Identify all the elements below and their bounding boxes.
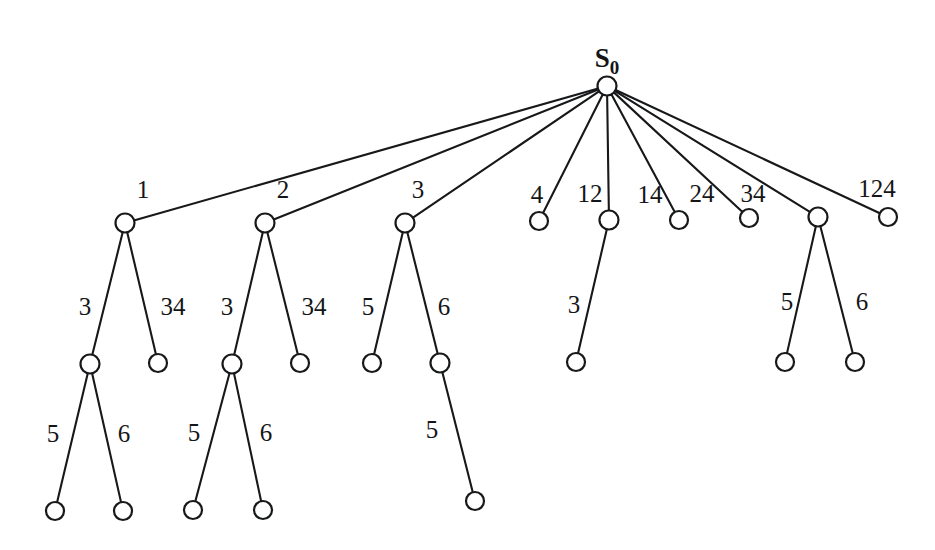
edge-label: 5 bbox=[362, 293, 375, 320]
tree-edge bbox=[374, 233, 402, 354]
tree-edge bbox=[578, 230, 607, 353]
tree-node[interactable] bbox=[670, 211, 688, 229]
tree-node[interactable] bbox=[81, 355, 100, 374]
tree-node[interactable] bbox=[567, 353, 585, 371]
tree-edge bbox=[57, 374, 87, 502]
edge-label: 5 bbox=[188, 419, 201, 446]
edge-label: 12 bbox=[578, 180, 603, 207]
tree-node[interactable] bbox=[256, 214, 275, 233]
tree-edge bbox=[614, 93, 742, 212]
edge-label: 34 bbox=[161, 293, 187, 320]
tree-edge bbox=[234, 233, 262, 354]
edge-label: 2 bbox=[277, 176, 290, 203]
tree-edge bbox=[413, 92, 598, 218]
tree-edge bbox=[267, 233, 297, 354]
tree-edge bbox=[821, 227, 853, 353]
edge-label: 6 bbox=[856, 288, 869, 315]
tree-node[interactable] bbox=[879, 208, 897, 226]
edge-label: 24 bbox=[690, 180, 716, 207]
root-node-label: S0 bbox=[595, 43, 620, 78]
tree-node[interactable] bbox=[116, 214, 135, 233]
edge-label: 34 bbox=[741, 180, 767, 207]
tree-edge bbox=[92, 374, 121, 502]
edge-label: 6 bbox=[118, 420, 131, 447]
tree-edge bbox=[135, 89, 598, 220]
tree-edge bbox=[407, 233, 437, 353]
tree-node[interactable] bbox=[776, 353, 794, 371]
tree-node[interactable] bbox=[291, 354, 309, 372]
tree-node-root[interactable] bbox=[598, 77, 617, 96]
edge-labels-layer: 1234121424341243343345635656565 bbox=[47, 175, 897, 447]
tree-edge bbox=[127, 233, 155, 354]
tree-edge bbox=[442, 373, 472, 492]
tree-edge bbox=[234, 374, 261, 501]
edge-label: 6 bbox=[438, 293, 451, 320]
tree-node[interactable] bbox=[431, 354, 450, 373]
edge-label: 4 bbox=[531, 181, 544, 208]
tree-node[interactable] bbox=[149, 354, 167, 372]
tree-node[interactable] bbox=[114, 502, 132, 520]
tree-node[interactable] bbox=[740, 209, 758, 227]
tree-node[interactable] bbox=[809, 208, 828, 227]
tree-edge bbox=[92, 233, 122, 354]
edge-label: 14 bbox=[638, 181, 664, 208]
tree-edge bbox=[195, 374, 229, 501]
root-label-subscript: 0 bbox=[610, 57, 620, 78]
tree-node[interactable] bbox=[600, 211, 619, 230]
tree-node[interactable] bbox=[46, 502, 64, 520]
tree-node[interactable] bbox=[846, 353, 864, 371]
edge-label: 124 bbox=[858, 175, 896, 202]
edge-label: 5 bbox=[781, 288, 794, 315]
edge-label: 6 bbox=[260, 419, 273, 446]
edge-label: 3 bbox=[568, 291, 581, 318]
edge-label: 1 bbox=[137, 176, 150, 203]
edge-label: 34 bbox=[302, 293, 328, 320]
edge-label: 5 bbox=[426, 416, 439, 443]
tree-diagram-canvas: 1234121424341243343345635656565 S0 bbox=[0, 0, 935, 550]
edge-label: 5 bbox=[47, 420, 60, 447]
edge-label: 3 bbox=[412, 176, 425, 203]
edge-label: 3 bbox=[79, 293, 92, 320]
root-label-main: S bbox=[595, 43, 610, 73]
root-label-layer: S0 bbox=[595, 43, 620, 78]
tree-edge bbox=[607, 96, 609, 210]
edge-label: 3 bbox=[221, 293, 234, 320]
tree-node[interactable] bbox=[184, 501, 202, 519]
tree-node[interactable] bbox=[466, 492, 484, 510]
tree-node[interactable] bbox=[363, 354, 381, 372]
tree-node[interactable] bbox=[530, 212, 548, 230]
tree-node[interactable] bbox=[223, 355, 242, 374]
tree-node[interactable] bbox=[396, 214, 415, 233]
tree-node[interactable] bbox=[254, 501, 272, 519]
